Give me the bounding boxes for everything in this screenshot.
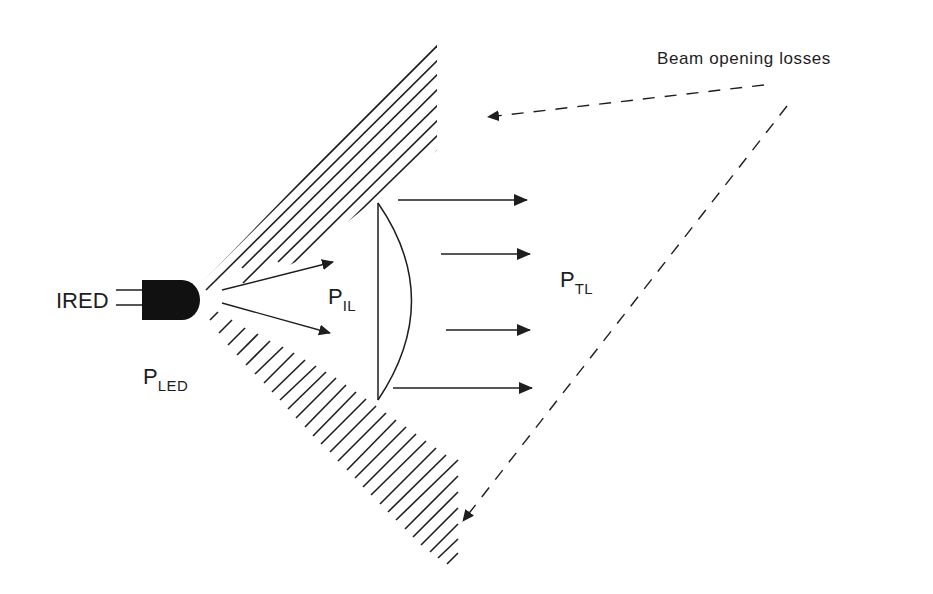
p-il-label: PIL	[328, 284, 356, 314]
ired-label: IRED	[56, 288, 109, 314]
emitter-body-icon	[142, 280, 200, 320]
ired-emitter	[116, 280, 200, 320]
ray-arrow-down	[222, 303, 330, 333]
upper-loss-region	[203, 43, 440, 290]
plano-convex-lens	[378, 203, 412, 400]
p-il-main: P	[328, 284, 343, 309]
p-tl-sub: TL	[575, 280, 593, 297]
collimated-rays	[393, 200, 532, 388]
loss-pointer-upper	[488, 85, 764, 117]
p-led-label: PLED	[143, 364, 188, 394]
p-il-sub: IL	[343, 297, 356, 314]
ray-arrow-up	[222, 262, 333, 290]
p-led-sub: LED	[158, 377, 189, 394]
p-tl-main: P	[560, 267, 575, 292]
p-led-main: P	[143, 364, 158, 389]
diverging-rays	[222, 262, 333, 333]
loss-pointers	[463, 85, 787, 521]
p-tl-label: PTL	[560, 267, 593, 297]
loss-pointer-lower	[463, 106, 787, 521]
lower-loss-region	[210, 312, 458, 564]
beam-opening-losses-label: Beam opening losses	[657, 49, 831, 69]
optical-diagram	[0, 0, 933, 594]
